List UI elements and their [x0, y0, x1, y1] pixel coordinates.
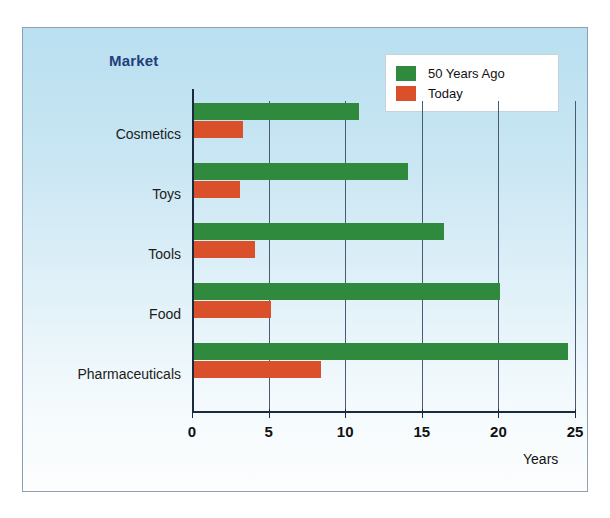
- category-label: Toys: [152, 187, 181, 201]
- bar-group: Toys: [194, 163, 588, 203]
- bar-today: [194, 241, 255, 258]
- x-axis-title: Years: [523, 451, 558, 467]
- bar-50-years-ago: [194, 223, 444, 240]
- x-tick-label: 20: [490, 423, 507, 440]
- legend-item-today: Today: [396, 83, 548, 103]
- bar-today: [194, 361, 321, 378]
- legend-label-50-years-ago: 50 Years Ago: [428, 66, 505, 81]
- plot-area: 0510152025CosmeticsToysToolsFoodPharmace…: [192, 101, 588, 413]
- chart-frame: Market 50 Years Ago Today 0510152025Cosm…: [22, 27, 588, 492]
- bar-today: [194, 181, 240, 198]
- category-label: Cosmetics: [116, 127, 181, 141]
- x-tick-label: 10: [337, 423, 354, 440]
- x-axis-line: [192, 411, 575, 413]
- legend-swatch-orange: [396, 86, 416, 101]
- x-tick-label: 15: [413, 423, 430, 440]
- legend-swatch-green: [396, 66, 416, 81]
- bar-group: Pharmaceuticals: [194, 343, 588, 383]
- bar-group: Tools: [194, 223, 588, 263]
- category-label: Pharmaceuticals: [78, 367, 182, 381]
- bar-today: [194, 121, 243, 138]
- plot-inner: 0510152025CosmeticsToysToolsFoodPharmace…: [192, 101, 588, 413]
- category-label: Tools: [148, 247, 181, 261]
- bar-group: Cosmetics: [194, 103, 588, 143]
- bar-50-years-ago: [194, 103, 359, 120]
- legend-label-today: Today: [428, 86, 463, 101]
- chart-title: Market: [109, 52, 159, 69]
- x-tick-label: 25: [567, 423, 584, 440]
- x-tick-mark: [575, 409, 576, 418]
- bar-50-years-ago: [194, 163, 408, 180]
- category-label: Food: [149, 307, 181, 321]
- bar-today: [194, 301, 271, 318]
- bar-50-years-ago: [194, 283, 500, 300]
- x-tick-label: 0: [188, 423, 196, 440]
- bar-50-years-ago: [194, 343, 568, 360]
- legend-item-50-years-ago: 50 Years Ago: [396, 63, 548, 83]
- bar-group: Food: [194, 283, 588, 323]
- x-tick-label: 5: [264, 423, 272, 440]
